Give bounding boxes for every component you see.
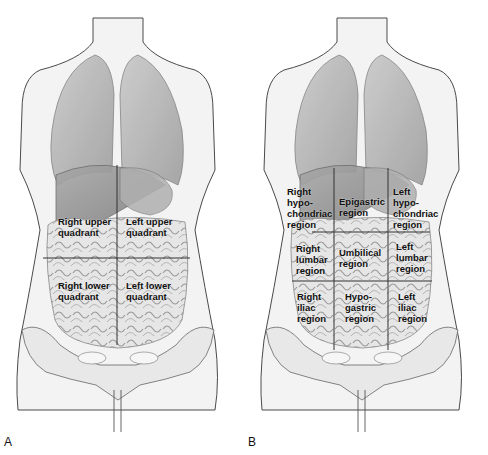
- label-left-upper-quadrant: Left upper quadrant: [126, 216, 172, 238]
- label-right-lower-quadrant: Right lower quadrant: [58, 280, 110, 302]
- label-left-iliac-region: Left iliac region: [398, 291, 427, 324]
- label-left-hypochondriac-region: Left hypo- chondriac region: [393, 186, 438, 230]
- label-left-lower-quadrant: Left lower quadrant: [126, 280, 171, 302]
- panel-letter-b: B: [248, 435, 256, 449]
- label-left-lumbar-region: Left lumbar region: [396, 241, 428, 274]
- label-right-hypochondriac-region: Right hypo- chondriac region: [287, 186, 332, 230]
- label-hypogastric-region: Hypo- gastric region: [345, 291, 376, 324]
- label-epigastric-region: Epigastric region: [339, 196, 385, 218]
- label-right-iliac-region: Right iliac region: [297, 291, 326, 324]
- panel-letter-a: A: [4, 435, 12, 449]
- label-right-upper-quadrant: Right upper quadrant: [58, 216, 111, 238]
- label-right-lumbar-region: Right lumbar region: [296, 243, 328, 276]
- label-umbilical-region: Umbilical region: [339, 247, 381, 269]
